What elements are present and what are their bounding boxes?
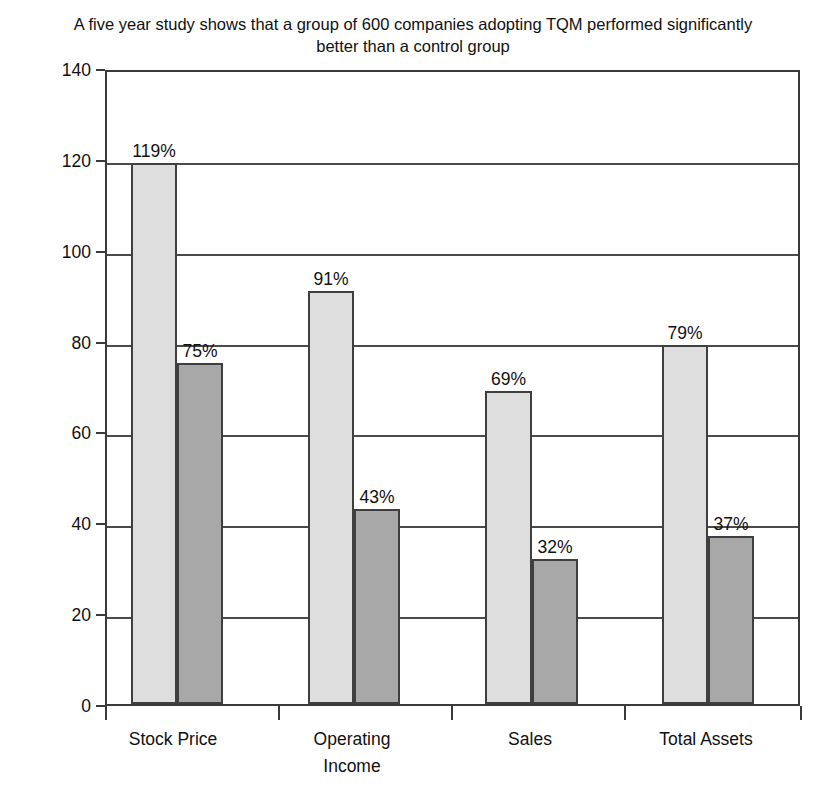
- y-tick-mark-140: [96, 69, 105, 71]
- x-category-label: Stock Price: [78, 726, 268, 753]
- bar-value-label: 32%: [537, 537, 572, 558]
- y-tick-label-20: 20: [31, 605, 91, 626]
- bar-value-label: 37%: [713, 514, 748, 535]
- x-cat-label-line: Income: [257, 753, 447, 780]
- x-cat-label-line: Sales: [435, 726, 625, 753]
- x-tick-mark-4: [800, 706, 802, 720]
- x-category-label: Sales: [435, 726, 625, 753]
- bar-value-label: 91%: [313, 269, 348, 290]
- x-cat-label-line: Total Assets: [611, 726, 801, 753]
- y-tick-mark-80: [96, 342, 105, 344]
- y-tick-label-140: 140: [31, 60, 91, 81]
- bar: [532, 559, 578, 704]
- y-tick-mark-120: [96, 160, 105, 162]
- bar-value-label: 79%: [667, 323, 702, 344]
- x-axis-labels: Stock PriceOperatingIncomeSalesTotal Ass…: [0, 726, 825, 786]
- x-tick-mark-1: [278, 706, 280, 720]
- y-tick-label-80: 80: [31, 332, 91, 353]
- y-tick-mark-100: [96, 251, 105, 253]
- bar-value-label: 69%: [491, 369, 526, 390]
- y-tick-label-120: 120: [31, 150, 91, 171]
- bar: [177, 363, 223, 704]
- x-tick-mark-3: [624, 706, 626, 720]
- bar-value-label: 43%: [359, 487, 394, 508]
- bar-value-label: 75%: [182, 341, 217, 362]
- x-category-label: OperatingIncome: [257, 726, 447, 780]
- y-tick-label-100: 100: [31, 241, 91, 262]
- bar: [308, 291, 354, 704]
- chart-subtitle: A five year study shows that a group of …: [62, 13, 764, 57]
- bar: [131, 163, 177, 704]
- y-axis: Percent 020406080100120140: [0, 70, 105, 706]
- bar: [354, 509, 400, 704]
- x-cat-label-line: Stock Price: [78, 726, 268, 753]
- x-cat-label-line: Operating: [257, 726, 447, 753]
- x-axis-ticks: [0, 706, 825, 722]
- x-tick-mark-0: [105, 706, 107, 720]
- x-category-label: Total Assets: [611, 726, 801, 753]
- y-tick-mark-20: [96, 614, 105, 616]
- bar: [708, 536, 754, 704]
- plot-area: 119%75%91%43%69%32%79%37%: [105, 70, 800, 706]
- y-tick-label-60: 60: [31, 423, 91, 444]
- bar: [662, 345, 708, 704]
- y-tick-label-40: 40: [31, 514, 91, 535]
- y-tick-mark-40: [96, 523, 105, 525]
- chart-figure: Effect of Total Quality Management on Co…: [0, 0, 825, 798]
- gridline-100: [107, 254, 798, 256]
- y-tick-mark-60: [96, 432, 105, 434]
- bar-value-label: 119%: [132, 141, 175, 162]
- x-tick-mark-2: [451, 706, 453, 720]
- gridline-120: [107, 163, 798, 165]
- bar: [485, 391, 532, 704]
